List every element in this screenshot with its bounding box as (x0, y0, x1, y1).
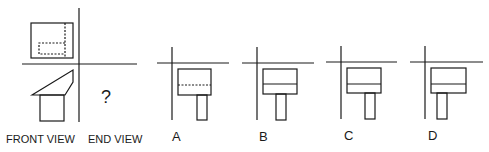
option-d-figure[interactable] (410, 46, 483, 119)
end-view-unknown-marker: ? (101, 87, 111, 108)
front-view (32, 70, 73, 121)
option-d-label[interactable]: D (428, 128, 437, 143)
orthographic-diagram (0, 0, 489, 152)
option-b-label[interactable]: B (259, 129, 268, 144)
end-view-label: END VIEW (88, 133, 142, 145)
option-a-label[interactable]: A (172, 129, 181, 144)
top-view (31, 23, 73, 58)
option-b-figure[interactable] (242, 47, 314, 120)
front-view-label: FRONT VIEW (6, 133, 75, 145)
option-c-label[interactable]: C (344, 128, 353, 143)
option-c-figure[interactable] (326, 46, 397, 119)
option-a-figure[interactable] (157, 47, 229, 120)
